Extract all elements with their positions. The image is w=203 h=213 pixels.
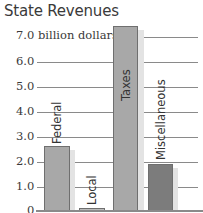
bar-label-taxes: Taxes [119,69,133,101]
bar-shadow-federal [70,150,75,210]
y-tick-5: 5.0 [16,81,34,93]
y-tick-1: 1.0 [16,181,34,193]
bar-label-federal: Federal [50,102,64,144]
x-axis-baseline [36,210,203,212]
y-tick-4: 4.0 [16,106,34,118]
bar-misc [148,164,173,212]
y-tick-7: 7.0 billion dollars [16,30,118,42]
bar-label-misc: Miscellaneous [154,79,168,160]
y-tick-2: 2.0 [16,156,34,168]
y-tick-0: 0 [27,205,34,213]
gridline-7 [138,37,198,38]
bar-label-local: Local [85,175,99,205]
bar-shadow-taxes [138,30,144,210]
bar-federal [44,146,70,211]
y-tick-6: 6.0 [16,56,34,68]
bar-taxes [113,26,138,212]
bar-shadow-misc [173,168,178,210]
chart-title: State Revenues [4,2,119,20]
y-tick-3: 3.0 [16,131,34,143]
